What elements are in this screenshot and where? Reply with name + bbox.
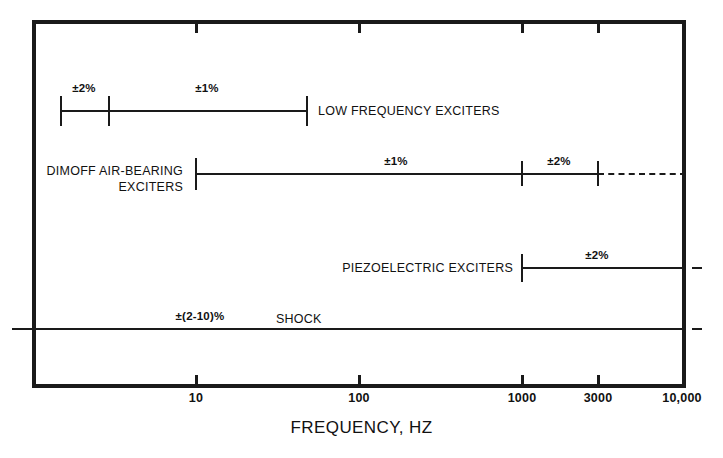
axis-tick-bottom-100 [358,375,361,388]
series-tail-dash-piezoelectric [692,267,702,269]
series-cap-low-frequency-mid [108,96,110,126]
axis-tick-top-10 [195,20,198,33]
series-line-dimoff-dashed-extension [598,173,686,175]
axis-tick-bottom-1000 [521,375,524,388]
series-label-dimoff-air-bearing-exciters: DIMOFF AIR-BEARING EXCITERS [0,163,183,195]
series-cap-piezoelectric-start [521,254,523,282]
series-cap-low-frequency-start [60,96,62,126]
series-label-piezoelectric-exciters: PIEZOELECTRIC EXCITERS [330,260,513,276]
series-label-dimoff-line1: DIMOFF AIR-BEARING [0,163,183,179]
axis-label-10000: 10,000 [662,391,701,405]
series-line-piezoelectric-exciters [521,267,686,269]
series-line-low-frequency-exciters [60,110,307,112]
axis-tick-top-1000 [521,20,524,33]
tolerance-label-low-frequency-b: ±1% [195,82,219,94]
axis-label-10: 10 [189,391,203,405]
series-line-shock [12,328,686,330]
series-label-low-frequency-exciters: LOW FREQUENCY EXCITERS [318,103,500,119]
tolerance-label-dimoff-a: ±1% [384,155,408,167]
series-tail-dash-shock [692,328,702,330]
axis-label-1000: 1000 [508,391,537,405]
plot-frame [32,20,686,388]
series-label-dimoff-line2: EXCITERS [0,179,183,195]
series-cap-dimoff-end [597,161,599,186]
series-label-shock: SHOCK [276,311,322,327]
tolerance-label-piezoelectric: ±2% [585,249,609,261]
series-cap-dimoff-start [195,158,197,190]
axis-label-100: 100 [348,391,369,405]
axis-tick-top-3000 [597,20,600,33]
axis-label-3000: 3000 [584,391,613,405]
x-axis-title: FREQUENCY, HZ [0,418,723,438]
series-cap-dimoff-mid [521,161,523,186]
tolerance-label-low-frequency-a: ±2% [72,82,96,94]
tolerance-label-dimoff-b: ±2% [547,155,571,167]
axis-tick-top-100 [358,20,361,33]
frequency-tolerance-chart: 10 100 1000 3000 10,000 FREQUENCY, HZ ±2… [0,0,723,458]
series-line-dimoff-air-bearing-exciters [195,173,598,175]
tolerance-label-shock: ±(2-10)% [176,310,225,322]
axis-tick-bottom-3000 [597,375,600,388]
series-cap-low-frequency-end [306,96,308,126]
axis-tick-bottom-10 [195,375,198,388]
